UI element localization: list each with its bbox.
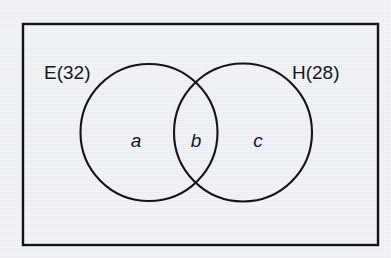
region-label-a: a	[131, 130, 142, 151]
region-label-c: c	[253, 130, 263, 151]
set-label-h: H(28)	[292, 62, 340, 83]
figure-page: E(32) H(28) a b c	[0, 0, 391, 258]
venn-diagram-figure: E(32) H(28) a b c	[0, 0, 391, 258]
region-label-b: b	[191, 130, 202, 151]
set-label-e: E(32)	[44, 62, 90, 83]
